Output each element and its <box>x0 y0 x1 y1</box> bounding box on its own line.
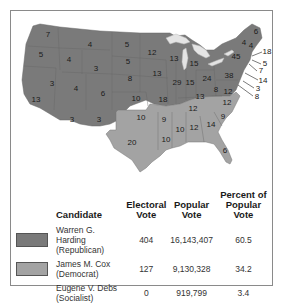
state-electoral-label: 6 <box>101 89 106 98</box>
percent-popular-vote-header: Percent ofPopular Vote <box>215 190 272 223</box>
state-electoral-label: 4 <box>242 38 247 47</box>
state-electoral-label: 8 <box>128 74 133 83</box>
state-electoral-label: 29 <box>173 78 182 87</box>
us-electoral-map: 7543134343365581010201213189101329151524… <box>0 0 283 200</box>
callout-electoral-label: 7 <box>259 66 264 75</box>
state-electoral-label: 5 <box>126 57 131 66</box>
state-electoral-label: 13 <box>196 92 205 101</box>
candidate-name: Warren G. Harding <box>56 225 95 245</box>
state-electoral-label: 10 <box>162 135 171 144</box>
callout-leader-line <box>249 64 257 71</box>
table-row-debs: Eugene V. Debs(Socialist) 0 919,799 3.4 <box>14 281 272 305</box>
state-electoral-label: 13 <box>170 54 179 63</box>
democrat-swatch <box>16 262 48 276</box>
state-electoral-label: 8 <box>214 85 219 94</box>
state-electoral-label: 38 <box>225 71 234 80</box>
popular-vote: 9,130,328 <box>168 257 215 281</box>
popular-vote: 16,143,407 <box>168 223 215 257</box>
state-electoral-label: 3 <box>50 79 55 88</box>
candidate-party: (Democrat) <box>56 269 99 279</box>
state-electoral-label: 5 <box>39 50 44 59</box>
callout-electoral-label: 8 <box>255 92 260 101</box>
state-electoral-label: 4 <box>88 40 93 49</box>
electoral-vote: 127 <box>124 257 168 281</box>
state-electoral-label: 12 <box>190 123 199 132</box>
callout-leader-line <box>245 73 258 80</box>
state-electoral-label: 6 <box>254 27 259 36</box>
state-electoral-label: 3 <box>97 115 102 124</box>
state-electoral-label: 7 <box>46 30 51 39</box>
candidate-name: Eugene V. Debs <box>56 283 117 293</box>
percent-popular-vote: 3.4 <box>215 281 272 305</box>
table-row-cox: James M. Cox(Democrat) 127 9,130,328 34.… <box>14 257 272 281</box>
electoral-vote-header: ElectoralVote <box>124 190 168 223</box>
state-electoral-label: 4 <box>249 41 254 50</box>
candidate-party: (Socialist) <box>56 293 93 303</box>
state-electoral-label: 15 <box>186 78 195 87</box>
state-electoral-label: 3 <box>70 115 75 124</box>
socialist-swatch-empty <box>16 286 48 300</box>
state-electoral-label: 13 <box>32 95 41 104</box>
results-table: Candidate ElectoralVote PopularVote Perc… <box>14 190 272 305</box>
state-electoral-label: 10 <box>176 125 185 134</box>
state-electoral-label: 20 <box>128 138 137 147</box>
callout-electoral-label: 18 <box>263 47 272 56</box>
electoral-vote: 404 <box>124 223 168 257</box>
republican-swatch <box>16 233 48 247</box>
state-electoral-label: 6 <box>223 146 228 155</box>
state-electoral-label: 9 <box>162 115 167 124</box>
callout-leader-line <box>243 81 254 88</box>
state-electoral-label: 12 <box>148 48 157 57</box>
state-electoral-label: 13 <box>153 69 162 78</box>
callout-leader-line <box>252 60 261 64</box>
callout-leader-line <box>252 52 262 56</box>
candidate-name: James M. Cox <box>56 259 110 269</box>
popular-vote-header: PopularVote <box>168 190 215 223</box>
popular-vote: 919,799 <box>168 281 215 305</box>
state-electoral-label: 12 <box>189 104 198 113</box>
percent-popular-vote: 34.2 <box>215 257 272 281</box>
state-electoral-label: 15 <box>190 59 199 68</box>
state-electoral-label: 4 <box>74 84 79 93</box>
electoral-vote: 0 <box>124 281 168 305</box>
percent-popular-vote: 60.5 <box>215 223 272 257</box>
swatch-header <box>14 190 54 223</box>
state-electoral-label: 4 <box>67 55 72 64</box>
state-electoral-label: 45 <box>232 52 241 61</box>
candidate-party: (Republican) <box>56 245 104 255</box>
state-electoral-label: 24 <box>203 74 212 83</box>
callout-electoral-label: 5 <box>263 59 268 68</box>
table-row-harding: Warren G. Harding(Republican) 404 16,143… <box>14 223 272 257</box>
table-header-row: Candidate ElectoralVote PopularVote Perc… <box>14 190 272 223</box>
state-electoral-label: 12 <box>224 87 233 96</box>
state-electoral-label: 3 <box>94 64 99 73</box>
state-electoral-label: 9 <box>221 112 226 121</box>
state-electoral-label: 10 <box>132 94 141 103</box>
state-electoral-label: 14 <box>207 120 216 129</box>
state-electoral-label: 18 <box>159 95 168 104</box>
state-electoral-label: 12 <box>223 98 232 107</box>
candidate-header: Candidate <box>54 190 124 223</box>
state-electoral-label: 10 <box>137 113 146 122</box>
state-electoral-label: 5 <box>125 40 130 49</box>
callout-leader-line <box>238 85 253 96</box>
